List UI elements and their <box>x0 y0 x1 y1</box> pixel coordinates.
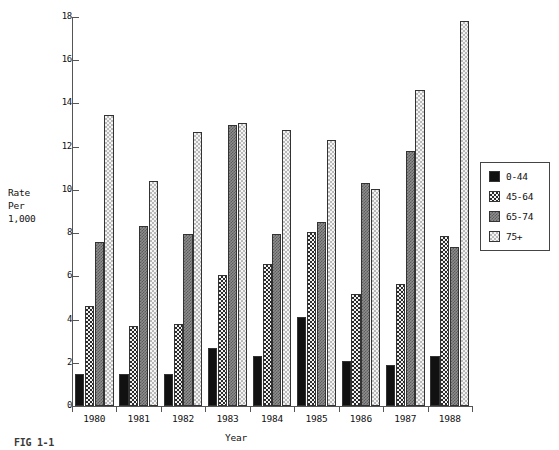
bar-1984-45-64 <box>263 264 272 406</box>
y-tick-label: 2 <box>48 358 72 367</box>
bar-1988-65-74 <box>450 247 459 406</box>
bar-1980-0-44 <box>75 374 84 406</box>
y-tick-mark <box>72 406 79 407</box>
y-tick-label-wrap: 16 <box>42 55 72 64</box>
legend: 0-4445-6465-7475+ <box>480 162 550 251</box>
y-tick-mark <box>72 233 79 234</box>
bar-1987-65-74 <box>406 151 415 406</box>
legend-item-65-74: 65-74 <box>489 211 543 222</box>
y-tick-mark <box>72 147 79 148</box>
figure-caption: FIG 1-1 <box>14 437 54 448</box>
y-axis-title-line: Per <box>8 199 64 212</box>
bar-1988-0-44 <box>430 356 439 406</box>
bar-1984-0-44 <box>253 356 262 406</box>
y-axis-title-line: Rate <box>8 186 64 199</box>
bar-1984-65-74 <box>272 234 281 406</box>
y-tick-mark <box>72 363 79 364</box>
bar-1981-65-74 <box>139 226 148 406</box>
bar-1986-65-74 <box>361 183 370 406</box>
bar-1980-65-74 <box>95 242 104 406</box>
bar-1981-0-44 <box>119 374 128 406</box>
x-tick-mark <box>383 406 384 412</box>
y-tick-label-wrap: 8 <box>42 228 72 237</box>
bar-1981-75+ <box>149 181 158 406</box>
bar-1986-45-64 <box>351 294 360 406</box>
y-tick-label-wrap: 0 <box>42 401 72 410</box>
x-tick-mark <box>161 406 162 412</box>
y-tick-label: 0 <box>48 401 72 410</box>
y-tick-mark <box>72 103 79 104</box>
legend-item-0-44: 0-44 <box>489 171 543 182</box>
x-tick-mark <box>72 406 73 412</box>
legend-swatch-0-44 <box>489 171 500 182</box>
x-tick-mark <box>250 406 251 412</box>
y-tick-label: 4 <box>48 315 72 324</box>
bar-1984-75+ <box>282 130 291 406</box>
y-axis-line <box>72 17 73 407</box>
y-tick-mark <box>72 17 79 18</box>
x-tick-mark <box>472 406 473 412</box>
y-axis-title: RatePer1,000 <box>8 186 64 225</box>
bar-1980-75+ <box>104 115 113 406</box>
bar-1982-65-74 <box>183 234 192 406</box>
x-tick-mark <box>339 406 340 412</box>
y-tick-label-wrap: 6 <box>42 271 72 280</box>
x-tick-mark <box>428 406 429 412</box>
bar-1980-45-64 <box>85 306 94 406</box>
y-tick-label: 16 <box>48 55 72 64</box>
bar-1988-45-64 <box>440 236 449 406</box>
x-tick-label: 1988 <box>424 414 476 424</box>
y-tick-label: 18 <box>48 12 72 21</box>
bar-1985-65-74 <box>317 222 326 406</box>
y-tick-label-wrap: 12 <box>42 142 72 151</box>
y-tick-mark <box>72 60 79 61</box>
legend-item-75+: 75+ <box>489 231 543 242</box>
y-tick-label: 8 <box>48 228 72 237</box>
bar-1983-0-44 <box>208 348 217 406</box>
legend-label-65-74: 65-74 <box>506 211 533 222</box>
bar-1987-0-44 <box>386 365 395 406</box>
bar-1986-0-44 <box>342 361 351 406</box>
bar-1983-45-64 <box>218 275 227 406</box>
bar-1985-45-64 <box>307 232 316 406</box>
y-tick-label-wrap: 2 <box>42 358 72 367</box>
legend-swatch-75+ <box>489 231 500 242</box>
y-tick-mark <box>72 320 79 321</box>
bar-1986-75+ <box>371 189 380 406</box>
y-axis-title-line: 1,000 <box>8 212 64 225</box>
legend-swatch-45-64 <box>489 191 500 202</box>
legend-swatch-65-74 <box>489 211 500 222</box>
legend-label-75+: 75+ <box>506 231 522 242</box>
y-tick-label-wrap: 18 <box>42 12 72 21</box>
y-tick-label-wrap: 4 <box>42 315 72 324</box>
bar-1981-45-64 <box>129 326 138 406</box>
x-tick-mark <box>205 406 206 412</box>
legend-label-45-64: 45-64 <box>506 191 533 202</box>
bar-1985-0-44 <box>297 317 306 406</box>
y-tick-mark <box>72 276 79 277</box>
x-axis-title: Year <box>0 432 472 443</box>
bar-1987-75+ <box>415 90 424 406</box>
legend-item-45-64: 45-64 <box>489 191 543 202</box>
bar-1982-0-44 <box>164 374 173 406</box>
bar-1983-75+ <box>238 123 247 406</box>
y-tick-label: 6 <box>48 271 72 280</box>
y-tick-label: 12 <box>48 142 72 151</box>
x-tick-mark <box>116 406 117 412</box>
x-axis-line <box>72 406 472 407</box>
bar-1987-45-64 <box>396 284 405 406</box>
bar-1983-65-74 <box>228 125 237 406</box>
y-tick-label: 14 <box>48 98 72 107</box>
bar-chart: 024681012141618 198019811982198319841985… <box>0 0 559 450</box>
y-tick-mark <box>72 190 79 191</box>
bar-1985-75+ <box>327 140 336 406</box>
bar-1988-75+ <box>460 21 469 406</box>
bar-1982-75+ <box>193 132 202 406</box>
y-tick-label-wrap: 14 <box>42 98 72 107</box>
bar-1982-45-64 <box>174 324 183 406</box>
x-tick-mark <box>294 406 295 412</box>
legend-label-0-44: 0-44 <box>506 171 528 182</box>
